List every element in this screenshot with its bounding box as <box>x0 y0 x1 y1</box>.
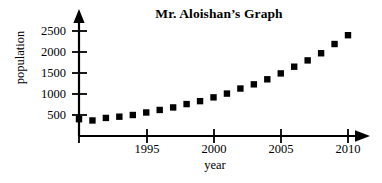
data-point <box>183 101 189 107</box>
data-point <box>130 112 136 118</box>
data-point <box>210 94 216 100</box>
data-point <box>331 41 337 47</box>
data-point <box>170 104 176 110</box>
data-point <box>237 85 243 91</box>
data-point <box>89 117 95 123</box>
data-point <box>304 57 310 63</box>
data-point-series <box>76 32 351 124</box>
data-point <box>116 113 122 119</box>
data-point <box>345 32 351 38</box>
data-point <box>264 76 270 82</box>
data-point <box>278 70 284 76</box>
plot-area <box>0 0 382 183</box>
data-point <box>318 50 324 56</box>
right-arrow-icon <box>355 130 370 142</box>
data-point <box>224 90 230 96</box>
data-point <box>76 116 82 122</box>
data-point <box>251 81 257 87</box>
up-arrow-icon <box>73 9 84 23</box>
data-point <box>157 107 163 113</box>
chart-figure: Mr. Aloishan’s Graph population year 250… <box>0 0 382 183</box>
data-point <box>197 98 203 104</box>
data-point <box>143 109 149 115</box>
data-point <box>103 115 109 121</box>
data-point <box>291 64 297 70</box>
